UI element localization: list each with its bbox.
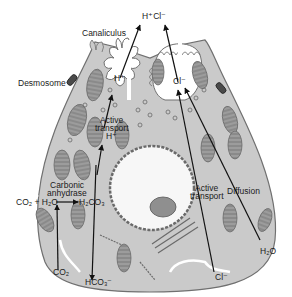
diffusion-label: Diffusion [227, 187, 260, 196]
nucleus [110, 146, 194, 230]
cl-bottom-label: Cl⁻ [215, 273, 228, 282]
h2o-bottom-label: H₂O [260, 247, 276, 256]
h-plus-inner-label: H⁺ [106, 132, 117, 141]
h-plus-canaliculus-label: H⁺ [114, 74, 125, 83]
cl-minus-canaliculus-label: Cl⁻ [173, 77, 186, 86]
reaction-right-label: H₂CO₃ [79, 198, 105, 207]
cell-illustration [0, 0, 292, 297]
hcl-label: H⁺Cl⁻ [142, 12, 166, 21]
co2-bottom-label: CO₂ [53, 268, 69, 277]
canaliculus-label: Canaliculus [82, 29, 126, 38]
active-transport-cl-line2: transport [190, 192, 224, 201]
reaction-left-label: CO₂ + H₂O [16, 198, 58, 207]
hco3-bottom-label: HCO₃⁻ [85, 278, 112, 287]
parietal-cell-diagram: H⁺Cl⁻ Canaliculus Desmosome H⁺ Cl⁻ Activ… [0, 0, 292, 297]
desmosome-label: Desmosome [18, 79, 66, 88]
